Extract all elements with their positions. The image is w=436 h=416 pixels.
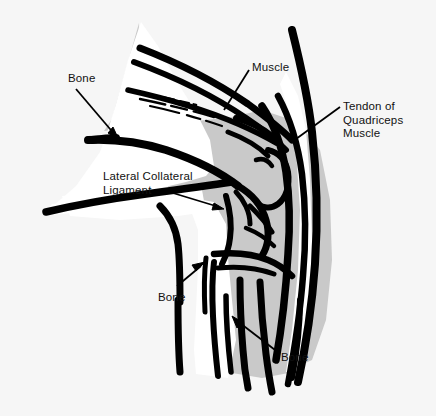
label-bone-bottom: Bone [281, 351, 308, 365]
label-tendon-line-1: Tendon of [343, 100, 395, 112]
label-bone-top: Bone [68, 72, 95, 86]
fibula-head-edge [204, 258, 206, 312]
label-tendon-of-quadriceps-muscle: Tendon ofQuadricepsMuscle [343, 100, 403, 141]
label-lcl-line-1: Lateral Collateral [103, 170, 193, 182]
knee-anatomy-illustration [0, 0, 436, 416]
femur-cortex-tip [92, 138, 116, 140]
label-lateral-collateral-ligament: Lateral CollateralLigament [103, 170, 193, 197]
label-muscle: Muscle [252, 61, 289, 75]
label-tendon-line-2: Quadriceps [343, 114, 403, 126]
figure-canvas: Bone Muscle Tendon ofQuadricepsMuscle La… [0, 0, 436, 416]
label-lcl-line-2: Ligament [103, 184, 152, 196]
calf-posterior-lower [178, 300, 180, 372]
label-bone-middle: Bone [158, 291, 185, 305]
label-tendon-line-3: Muscle [343, 127, 380, 139]
